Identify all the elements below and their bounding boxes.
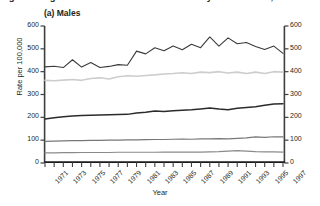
y-axis-tick-label-right: 100 <box>290 135 302 142</box>
data-series-line <box>45 151 283 153</box>
plot-area: 0010010020020030030040040050050060060019… <box>44 26 292 163</box>
y-axis-tick-label: 100 <box>27 135 39 142</box>
data-series-line <box>45 137 283 142</box>
y-axis-title: Rate per 100,000 <box>15 12 24 122</box>
y-axis-tick-label: 300 <box>27 90 39 97</box>
data-series-line <box>45 104 283 119</box>
page-title: (a) Males <box>44 8 80 18</box>
y-axis-tick-label-right: 0 <box>290 158 294 165</box>
figure-caption-cutoff: Figure 3. Age-standardised incidence rat… <box>0 0 320 5</box>
x-axis-title: Year <box>0 188 320 197</box>
y-axis-tick-label-right: 400 <box>290 67 302 74</box>
line-chart-svg <box>38 24 300 183</box>
figure-panel-a-males: Figure 3. Age-standardised incidence rat… <box>0 0 320 206</box>
y-axis-tick-label: 500 <box>27 44 39 51</box>
y-axis-tick-label-right: 600 <box>290 21 302 28</box>
y-axis-tick-label-right: 500 <box>290 44 302 51</box>
y-axis-tick-label: 400 <box>27 67 39 74</box>
y-axis-tick-label: 200 <box>27 112 39 119</box>
data-series-line <box>45 37 283 68</box>
y-axis-tick-label: 600 <box>27 21 39 28</box>
y-axis-tick-label-right: 300 <box>290 90 302 97</box>
y-axis-tick-label-right: 200 <box>290 112 302 119</box>
y-axis-tick-label: 0 <box>35 158 39 165</box>
data-series-line <box>45 72 283 81</box>
